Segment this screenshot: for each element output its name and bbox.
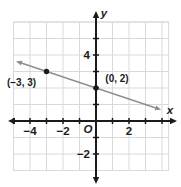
y-axis-label: y <box>100 7 108 19</box>
x-tick-label: −2 <box>56 125 69 137</box>
origin-label: O <box>84 123 93 135</box>
plot-background <box>0 0 181 187</box>
y-tick-label: −2 <box>77 148 90 160</box>
coordinate-plane: −4−224−2Oxy(−3, 3)(0, 2) <box>0 0 181 187</box>
data-point <box>93 85 98 90</box>
point-label: (0, 2) <box>105 73 128 84</box>
point-label: (−3, 3) <box>7 77 36 88</box>
graph-figure: −4−224−2Oxy(−3, 3)(0, 2) <box>0 0 181 187</box>
x-tick-label: −4 <box>23 125 37 137</box>
data-point <box>44 69 49 74</box>
x-tick-label: 2 <box>126 125 132 137</box>
x-axis-label: x <box>166 104 174 116</box>
y-tick-label: 4 <box>84 49 91 61</box>
